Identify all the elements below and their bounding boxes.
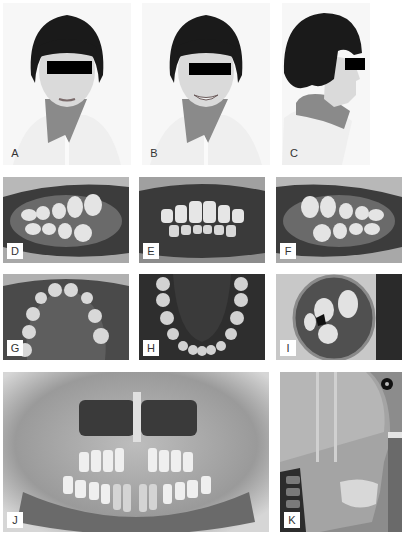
panel-f-left-buccal: F [276,177,402,263]
face-frontal-image [3,3,131,165]
panel-label: C [286,145,302,161]
panel-k-cephalometric-radiograph: K [280,372,402,532]
panel-label: J [7,512,23,528]
face-profile-image [282,3,370,165]
panel-g-maxillary-occlusal: G [3,274,129,360]
panel-c-profile: C [282,3,370,165]
cephalometric-xray-image [280,372,402,532]
panel-d-right-buccal: D [3,177,129,263]
panel-label: B [146,145,162,161]
panoramic-xray-image [3,372,269,532]
eye-mask-bar [47,61,92,74]
eye-mask-bar [345,58,365,70]
panel-i-mirror-view: I [276,274,402,360]
panel-label: H [143,340,159,356]
panel-h-mandibular-occlusal: H [139,274,265,360]
panel-label: I [280,340,296,356]
panel-e-frontal-occlusion: E [139,177,265,263]
panel-b-frontal-smile: B [142,3,270,165]
panel-label: D [7,243,23,259]
eye-mask-bar [189,63,231,75]
panel-label: A [7,145,23,161]
panel-j-panoramic-radiograph: J [3,372,269,532]
panel-label: E [143,243,159,259]
panel-label: G [7,340,23,356]
panel-label: F [280,243,296,259]
panel-a-frontal-rest: A [3,3,131,165]
face-frontal-smile-image [142,3,270,165]
panel-label: K [284,512,300,528]
